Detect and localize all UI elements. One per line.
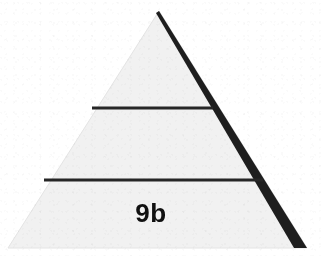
- tier-bottom-label: 9b: [135, 198, 166, 228]
- figure-container: 9b: [0, 0, 325, 256]
- pyramid-diagram: 9b: [0, 0, 325, 256]
